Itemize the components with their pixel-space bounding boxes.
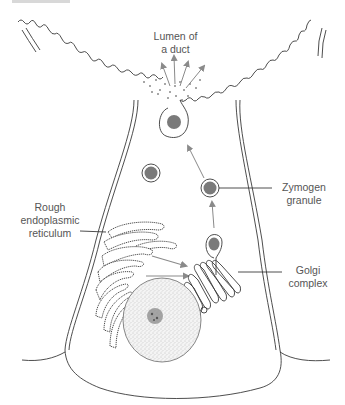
nucleus [123,278,201,362]
label-line: complex [283,277,333,290]
zymogen-granules [142,164,222,275]
label-line: reticulum [18,227,82,240]
label-line: granule [274,194,334,207]
label-line: endoplasmic [18,214,82,227]
label-line: Rough [18,201,82,214]
label-line: Lumen of [148,30,203,43]
label-line: a duct [148,43,203,56]
label-rough-endoplasmic-reticulum: Rough endoplasmic reticulum [18,201,82,240]
exocytosis-arrows [162,56,204,88]
released-secretion-dots [143,79,201,101]
label-lumen-of-duct: Lumen of a duct [148,30,203,56]
nucleolus [147,308,163,324]
fusing-granule [159,100,188,138]
label-zymogen-granule: Zymogen granule [274,181,334,207]
label-golgi-complex: Golgi complex [283,264,333,290]
label-line: Golgi [283,264,333,277]
rer-to-golgi-arrows [146,256,188,276]
label-line: Zymogen [274,181,334,194]
